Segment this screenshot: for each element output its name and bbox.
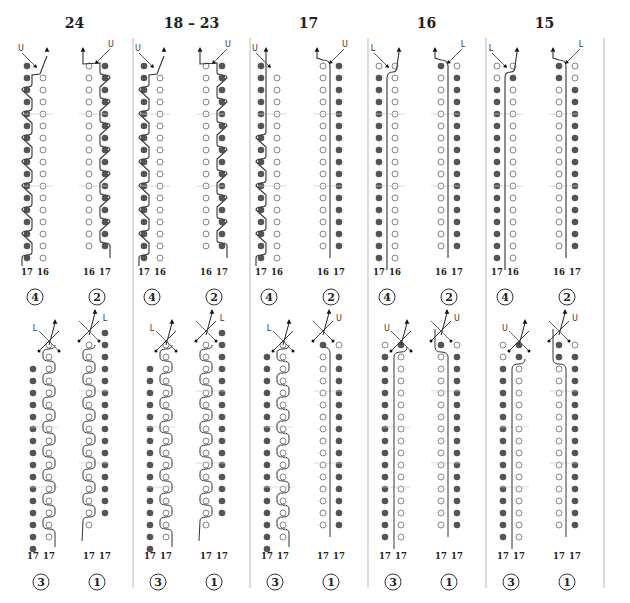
filled-hole <box>500 534 507 541</box>
empty-hole <box>398 498 404 504</box>
bottom-section: UU1717171731 <box>497 309 581 590</box>
empty-hole <box>163 462 169 468</box>
arrow-head-icon <box>45 47 50 52</box>
empty-hole <box>494 75 500 81</box>
filled-hole <box>454 522 461 529</box>
empty-hole <box>86 366 92 372</box>
empty-hole <box>556 486 562 492</box>
empty-hole <box>203 123 209 129</box>
filled-hole <box>500 390 507 397</box>
empty-hole <box>438 402 444 408</box>
column-count: 17 <box>200 551 212 561</box>
marker-label: U <box>18 44 24 53</box>
column-count: 16 <box>317 267 329 277</box>
filled-hole <box>454 486 461 493</box>
arrow-head-icon <box>162 47 167 52</box>
empty-hole <box>516 534 522 540</box>
empty-hole <box>86 438 92 444</box>
filled-hole <box>382 414 389 421</box>
empty-hole <box>203 135 209 141</box>
column-count: 17 <box>216 267 228 277</box>
empty-hole <box>398 366 404 372</box>
filled-hole <box>572 438 579 445</box>
filled-hole <box>382 450 389 457</box>
filled-hole <box>572 510 579 517</box>
filled-hole <box>438 342 445 349</box>
marker-label: L <box>267 324 272 333</box>
filled-hole <box>510 75 517 82</box>
filled-hole <box>454 171 461 178</box>
empty-hole <box>46 354 52 360</box>
panel-title: 18 – 23 <box>164 15 220 31</box>
filled-hole <box>264 534 271 541</box>
filled-hole <box>572 474 579 481</box>
empty-hole <box>46 366 52 372</box>
filled-hole <box>102 366 109 373</box>
empty-hole <box>438 171 444 177</box>
filled-hole <box>24 75 31 82</box>
filled-hole <box>336 414 343 421</box>
empty-hole <box>274 99 280 105</box>
empty-hole <box>438 87 444 93</box>
filled-hole <box>556 342 563 349</box>
arrow-head-icon <box>433 47 438 52</box>
filled-hole <box>30 438 37 445</box>
filled-hole <box>494 99 501 106</box>
filled-hole <box>500 522 507 529</box>
empty-hole <box>40 219 46 225</box>
arrow-head-icon <box>515 47 520 52</box>
empty-hole <box>40 255 46 261</box>
filled-hole <box>494 135 501 142</box>
column-count: 17 <box>83 551 95 561</box>
filled-hole <box>219 63 226 70</box>
column-count: 16 <box>553 267 565 277</box>
filled-hole <box>102 342 109 349</box>
arrow-tip-icon <box>38 350 41 353</box>
filled-hole <box>454 414 461 421</box>
filled-hole <box>336 366 343 373</box>
empty-hole <box>438 414 444 420</box>
empty-hole <box>203 99 209 105</box>
empty-hole <box>203 510 209 516</box>
filled-hole <box>219 498 226 505</box>
filled-hole <box>336 486 343 493</box>
filled-hole <box>336 195 343 202</box>
empty-hole <box>392 207 398 213</box>
empty-hole <box>392 75 398 81</box>
arrow-tip-icon <box>450 340 453 343</box>
filled-hole <box>336 135 343 142</box>
filled-hole <box>147 510 154 517</box>
empty-hole <box>376 63 382 69</box>
empty-hole <box>157 159 163 165</box>
empty-hole <box>46 402 52 408</box>
empty-hole <box>320 366 326 372</box>
empty-hole <box>556 231 562 237</box>
filled-hole <box>102 414 109 421</box>
card-label: 3 <box>37 576 45 589</box>
empty-hole <box>320 243 326 249</box>
empty-hole <box>572 63 578 69</box>
empty-hole <box>398 390 404 396</box>
column-count: 17 <box>277 551 289 561</box>
filled-hole <box>572 171 579 178</box>
column-count: 17 <box>435 551 447 561</box>
empty-hole <box>510 219 516 225</box>
filled-hole <box>494 159 501 166</box>
empty-hole <box>280 366 286 372</box>
empty-hole <box>203 147 209 153</box>
column-count: 17 <box>513 551 525 561</box>
empty-hole <box>280 414 286 420</box>
empty-hole <box>203 402 209 408</box>
filled-hole <box>500 450 507 457</box>
filled-hole <box>219 87 226 94</box>
filled-hole <box>336 243 343 250</box>
filled-hole <box>494 87 501 94</box>
filled-hole <box>24 63 31 70</box>
arrow-head-icon <box>170 319 175 324</box>
filled-hole <box>102 330 109 337</box>
filled-hole <box>264 498 271 505</box>
empty-hole <box>438 486 444 492</box>
empty-hole <box>398 450 404 456</box>
marker-label: U <box>135 44 141 53</box>
filled-hole <box>572 207 579 214</box>
